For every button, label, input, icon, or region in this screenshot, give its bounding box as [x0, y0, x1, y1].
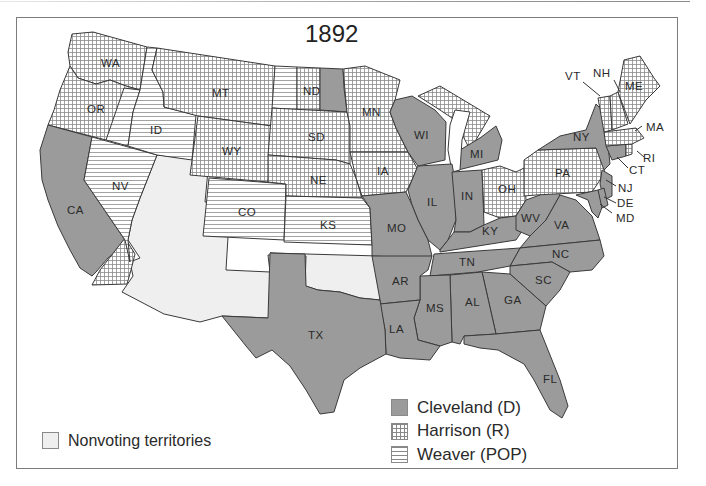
legend-item-weaver: Weaver (POP)	[391, 443, 527, 467]
state-nd-weaver	[272, 66, 297, 110]
label-ma: MA	[646, 121, 664, 133]
label-mn: MN	[362, 106, 381, 118]
label-tn: TN	[459, 256, 475, 268]
label-wa: WA	[101, 57, 120, 69]
label-mo: MO	[387, 222, 407, 234]
label-wy: WY	[222, 145, 242, 157]
legend-item-nonvoting: Nonvoting territories	[42, 429, 211, 452]
legend-label-cleveland: Cleveland (D)	[417, 398, 521, 418]
label-ny: NY	[573, 131, 590, 143]
label-nj: NJ	[618, 182, 633, 194]
label-ar: AR	[392, 275, 409, 287]
label-wi: WI	[414, 129, 429, 141]
label-mt: MT	[212, 87, 230, 99]
label-ri: RI	[643, 152, 656, 164]
label-nh: NH	[593, 67, 611, 79]
label-ne: NE	[310, 174, 327, 186]
legend-item-harrison: Harrison (R)	[391, 420, 527, 444]
label-me: ME	[625, 80, 643, 92]
label-tx: TX	[308, 329, 324, 341]
label-ct: CT	[629, 164, 645, 176]
legend-label-harrison: Harrison (R)	[417, 421, 510, 441]
label-ia: IA	[377, 165, 389, 177]
label-va: VA	[554, 219, 570, 231]
label-ks: KS	[320, 219, 336, 231]
label-il: IL	[427, 196, 438, 208]
label-mi: MI	[470, 148, 484, 160]
state-nd-cleveland	[320, 68, 347, 112]
label-md: MD	[616, 212, 635, 224]
map-title: 1892	[305, 20, 358, 48]
harrison-swatch	[391, 423, 408, 440]
label-oh: OH	[498, 183, 516, 195]
weaver-swatch	[391, 446, 408, 463]
label-sd: SD	[308, 131, 325, 143]
label-pa: PA	[555, 167, 571, 179]
legend-item-cleveland: Cleveland (D)	[391, 396, 527, 420]
label-ga: GA	[504, 294, 522, 306]
label-ky: KY	[482, 225, 498, 237]
label-vt: VT	[565, 70, 581, 82]
label-nc: NC	[552, 248, 570, 260]
label-nv: NV	[112, 180, 129, 192]
cleveland-swatch	[391, 399, 408, 416]
legend-nonvoting: Nonvoting territories	[42, 429, 211, 452]
label-wv: WV	[521, 212, 541, 224]
label-sc: SC	[535, 274, 552, 286]
legend-parties: Cleveland (D) Harrison (R) Weaver (POP)	[391, 396, 527, 467]
label-la: LA	[389, 323, 404, 335]
label-fl: FL	[543, 373, 558, 385]
label-ms: MS	[426, 302, 444, 314]
label-ca: CA	[67, 204, 84, 216]
legend-label-nonvoting: Nonvoting territories	[68, 432, 211, 450]
label-al: AL	[465, 296, 480, 308]
label-nd: ND	[303, 85, 321, 97]
label-id: ID	[150, 124, 163, 136]
state-ri	[626, 144, 632, 156]
label-in: IN	[461, 190, 474, 202]
label-de: DE	[617, 197, 634, 209]
us-election-map: WA OR CA ID NV MT WY CO ND SD NE KS MN I…	[0, 0, 706, 486]
label-or: OR	[87, 103, 105, 115]
label-co: CO	[238, 206, 256, 218]
nonvoting-swatch	[42, 432, 59, 449]
legend-label-weaver: Weaver (POP)	[417, 445, 527, 465]
